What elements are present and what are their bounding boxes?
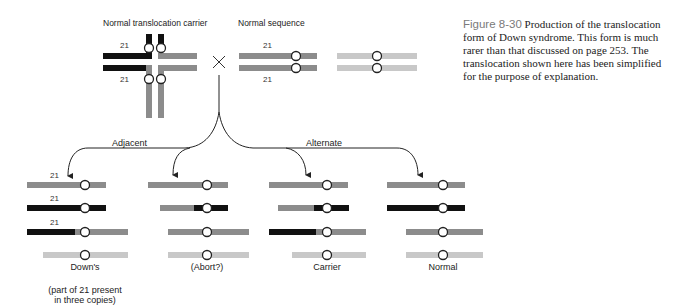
outcome-abort-label: (Abort?): [157, 262, 257, 272]
segregation-arrows: [68, 75, 418, 176]
downs-note: (part of 21 present in three copies): [30, 285, 140, 305]
outcome-carrier-label: Carrier: [277, 262, 377, 272]
outcome-downs-label: Down's: [35, 262, 135, 272]
outcome-normal-chromosomes: [387, 181, 483, 260]
normal-sequence-chromosomes: [239, 52, 417, 73]
chromosome-label-21: 21: [263, 75, 272, 84]
outcome-carrier-chromosomes: [269, 181, 366, 260]
downs-row2-label: 21: [50, 194, 59, 203]
outcome-downs-chromosomes: [27, 181, 128, 260]
chromosome-label-21: 21: [120, 41, 129, 50]
downs-note-line2: in three copies): [30, 295, 140, 305]
figure-caption: Figure 8-30 Production of the translocat…: [463, 18, 671, 83]
figure-number: Figure 8-30: [463, 18, 522, 30]
downs-note-line1: (part of 21 present: [30, 285, 140, 295]
alternate-label: Alternate: [306, 138, 342, 148]
downs-row3-label: 21: [50, 218, 59, 227]
outcome-normal-label: Normal: [393, 262, 493, 272]
normal-sequence-title: Normal sequence: [238, 18, 305, 28]
outcome-abort-chromosomes: [148, 181, 249, 260]
cross-icon: [213, 56, 225, 68]
translocation-carrier-chromosomes: [103, 34, 197, 118]
carrier-title: Normal translocation carrier: [103, 18, 207, 28]
adjacent-label: Adjacent: [112, 138, 147, 148]
downs-row1-label: 21: [50, 171, 59, 180]
chromosome-label-21: 21: [263, 41, 272, 50]
chromosome-label-21: 21: [120, 75, 129, 84]
